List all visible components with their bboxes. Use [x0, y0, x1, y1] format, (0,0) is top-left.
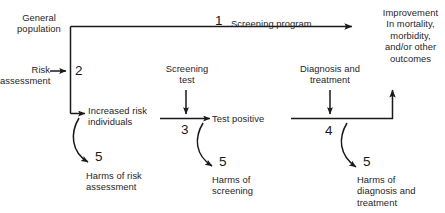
step-number-5-screening: 5 [219, 155, 227, 169]
label-risk-assessment: Risk assessment [0, 64, 50, 87]
step-number-5-risk: 5 [95, 150, 103, 164]
step-number-3: 3 [181, 123, 189, 137]
arrow-to-improvement [291, 90, 393, 119]
screening-flow-diagram: General population Risk assessment Incre… [0, 0, 445, 213]
step-number-2: 2 [75, 64, 83, 78]
label-improvement-outcomes: Improvement In mortality, morbidity, and… [376, 7, 445, 64]
arrow-harms-screening [197, 123, 212, 166]
label-harms-of-screening: Harms of screening [212, 174, 282, 197]
step-number-1: 1 [215, 14, 223, 28]
label-test-positive: Test positive [212, 113, 292, 124]
label-diagnosis-and-treatment: Diagnosis and treatment [286, 63, 374, 86]
arrow-harms-risk-assessment [73, 118, 88, 162]
label-general-population: General population [8, 12, 70, 35]
arrow-harms-diagnosis-treatment [341, 123, 356, 167]
label-screening-program: Screening program [231, 18, 341, 29]
step-number-4: 4 [325, 124, 333, 138]
label-harms-of-risk-assessment: Harms of risk assessment [86, 170, 176, 193]
label-harms-of-diagnosis-and-treatment: Harms of diagnosis and treatment [357, 174, 437, 208]
label-screening-test: Screening test [152, 63, 222, 86]
step-number-5-diagnosis: 5 [363, 155, 371, 169]
label-increased-risk-individuals: Increased risk individuals [88, 105, 164, 128]
